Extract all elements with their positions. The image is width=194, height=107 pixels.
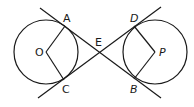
- label-o: O: [35, 46, 44, 59]
- label-a: A: [63, 12, 71, 25]
- label-c: C: [62, 83, 70, 96]
- radius-pb: [134, 52, 155, 79]
- label-e: E: [95, 36, 102, 49]
- radius-oa: [46, 26, 65, 52]
- tangent-line-ab: [40, 8, 161, 98]
- radius-oc: [46, 52, 64, 80]
- radius-pd: [134, 26, 155, 52]
- label-p: P: [159, 46, 166, 59]
- geometry-diagram: A C O E D B P: [0, 0, 194, 107]
- label-b: B: [130, 83, 138, 96]
- label-d: D: [130, 12, 138, 25]
